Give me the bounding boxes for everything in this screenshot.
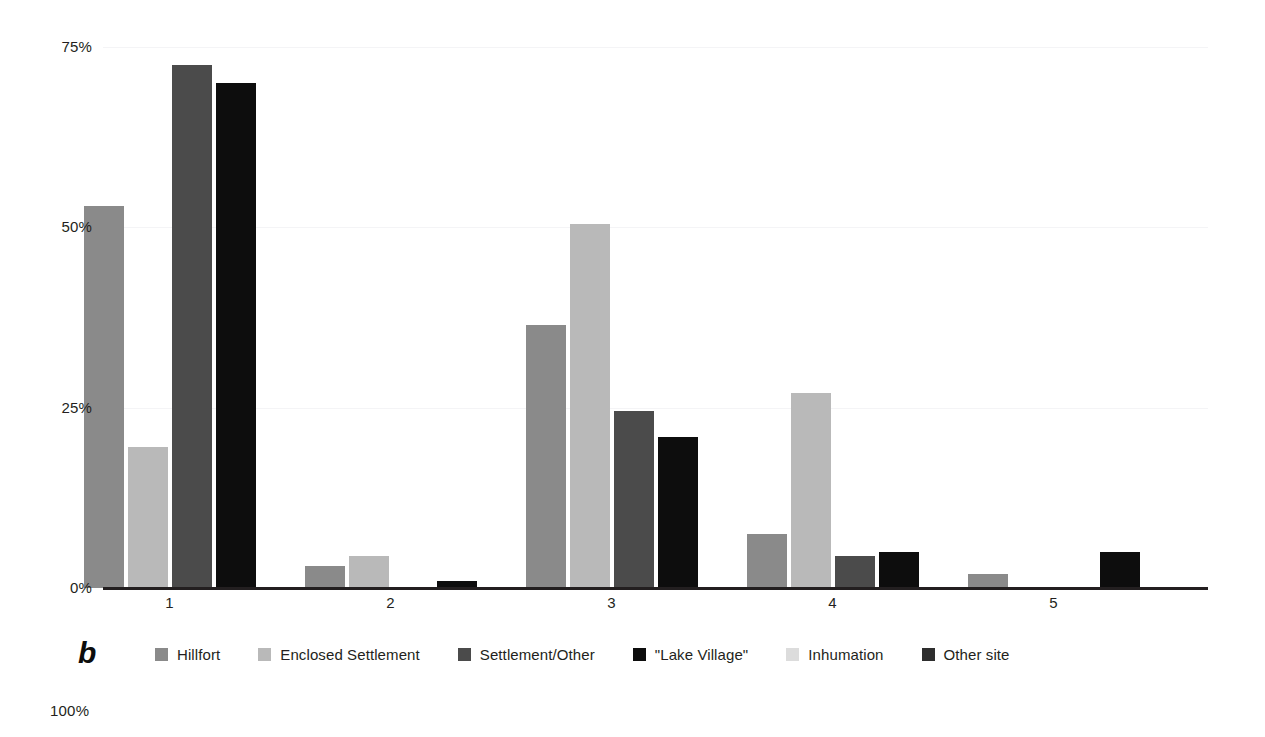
y-axis-tick-label: 0% [70, 579, 92, 596]
legend-swatch-icon [786, 648, 799, 661]
legend-item: Other site [922, 646, 1010, 663]
x-axis-tick-label: 4 [813, 594, 853, 611]
y-axis-tick-label: 50% [61, 218, 92, 235]
legend-item: Inhumation [786, 646, 883, 663]
bar [84, 206, 124, 588]
bar [570, 224, 610, 588]
bar [172, 65, 212, 588]
bar [128, 447, 168, 588]
legend-item: Settlement/Other [458, 646, 595, 663]
panel-label-b: b [78, 636, 96, 670]
chart-legend: HillfortEnclosed SettlementSettlement/Ot… [155, 641, 1048, 667]
bar [305, 566, 345, 588]
bar [526, 325, 566, 588]
y-axis-tick-label: 25% [61, 399, 92, 416]
bar [1100, 552, 1140, 588]
bar [349, 556, 389, 588]
bar [658, 437, 698, 588]
bar [747, 534, 787, 588]
legend-label: Hillfort [177, 646, 220, 663]
legend-swatch-icon [633, 648, 646, 661]
y-axis-tick-label: 75% [61, 38, 92, 55]
legend-swatch-icon [458, 648, 471, 661]
legend-label: Settlement/Other [480, 646, 595, 663]
bar [968, 574, 1008, 588]
legend-item: "Lake Village" [633, 646, 749, 663]
x-axis-tick-label: 3 [592, 594, 632, 611]
legend-label: Other site [944, 646, 1010, 663]
legend-label: Inhumation [808, 646, 883, 663]
legend-swatch-icon [155, 648, 168, 661]
legend-item: Hillfort [155, 646, 220, 663]
legend-swatch-icon [258, 648, 271, 661]
x-axis-tick-label: 1 [150, 594, 190, 611]
figure-panel-b: 0%25%50%75% 12345 b HillfortEnclosed Set… [0, 0, 1265, 737]
bar [791, 393, 831, 588]
legend-item: Enclosed Settlement [258, 646, 419, 663]
bar [835, 556, 875, 588]
next-panel-axis-label: 100% [50, 702, 89, 719]
x-axis-tick-label: 5 [1034, 594, 1074, 611]
x-axis-tick-label: 2 [371, 594, 411, 611]
x-axis-line [103, 587, 1208, 590]
legend-label: Enclosed Settlement [280, 646, 419, 663]
legend-label: "Lake Village" [655, 646, 749, 663]
legend-swatch-icon [922, 648, 935, 661]
bar [879, 552, 919, 588]
bars-layer [103, 47, 1208, 588]
bar [216, 83, 256, 588]
bar [614, 411, 654, 588]
